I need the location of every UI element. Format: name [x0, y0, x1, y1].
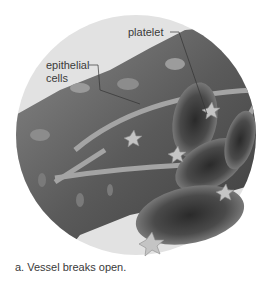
- platelet-label: platelet: [128, 26, 163, 38]
- figure-caption: a. Vessel breaks open.: [15, 261, 126, 273]
- hemostasis-illustration: platelet epithelial cells: [0, 0, 273, 289]
- vessel-break-illustration: [0, 0, 273, 289]
- epithelial-label-line2: cells: [46, 72, 68, 84]
- epithelial-label-line1: epithelial: [46, 59, 89, 71]
